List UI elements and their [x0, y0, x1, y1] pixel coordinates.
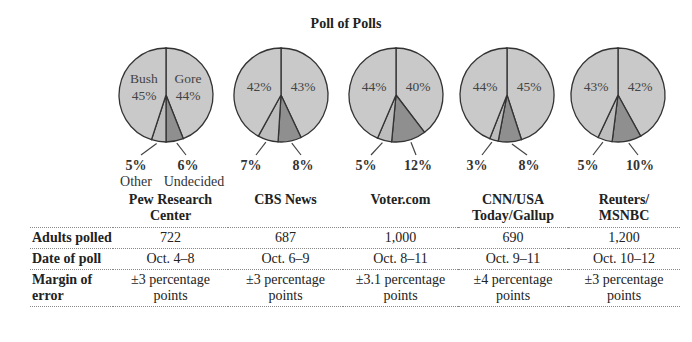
- table-cell: Oct. 10–12: [568, 249, 680, 270]
- other-value-label: 5%: [578, 158, 599, 173]
- leader-line: [371, 143, 382, 155]
- table-row-date-of-poll: Date of poll Oct. 4–8 Oct. 6–9 Oct. 8–11…: [30, 249, 680, 270]
- table-cell: 722: [113, 228, 228, 249]
- table-cell: 1,000: [343, 228, 458, 249]
- undecided-value-label: 10%: [626, 158, 654, 173]
- col-header-voter: Voter.com: [343, 192, 458, 228]
- table-cell: Oct. 8–11: [343, 249, 458, 270]
- table-cell: 690: [458, 228, 568, 249]
- table-row-margin-of-error: Margin oferror ±3 percentagepoints ±3 pe…: [30, 270, 680, 307]
- undecided-value-label: 12%: [404, 158, 432, 173]
- undecided-name-label: Undecided: [164, 174, 225, 189]
- gore-name-label: Gore: [175, 71, 202, 86]
- col-header-reuters: Reuters/MSNBC: [568, 192, 680, 228]
- leader-line: [177, 143, 186, 155]
- other-value-label: 3%: [467, 158, 488, 173]
- col-header-cnn: CNN/USAToday/Gallup: [458, 192, 568, 228]
- table-cell: 687: [228, 228, 343, 249]
- row-label: Date of poll: [30, 249, 113, 270]
- other-name-label: Other: [120, 174, 152, 189]
- undecided-value-label: 8%: [293, 158, 314, 173]
- other-value-label: 7%: [241, 158, 262, 173]
- other-value-label: 5%: [126, 158, 147, 173]
- table-cell: 1,200: [568, 228, 680, 249]
- table-cell: ±3 percentagepoints: [228, 270, 343, 307]
- bush-value-label: 45%: [132, 88, 157, 103]
- bush-value-label: 43%: [584, 79, 609, 94]
- leader-line: [256, 142, 266, 155]
- table-cell: ±3 percentagepoints: [113, 270, 228, 307]
- col-header-pew: Pew ResearchCenter: [113, 192, 228, 228]
- leader-line: [141, 143, 157, 155]
- gore-value-label: 40%: [406, 79, 431, 94]
- table-cell: ±4 percentagepoints: [458, 270, 568, 307]
- table-header-row: Pew ResearchCenter CBS News Voter.com CN…: [30, 192, 680, 228]
- leader-line: [482, 142, 492, 155]
- table-cell: Oct. 9–11: [458, 249, 568, 270]
- leader-line: [593, 142, 603, 155]
- bush-value-label: 44%: [473, 79, 498, 94]
- table-row-adults-polled: Adults polled 722 687 1,000 690 1,200: [30, 228, 680, 249]
- row-label: Adults polled: [30, 228, 113, 249]
- bush-value-label: 44%: [362, 79, 387, 94]
- gore-value-label: 45%: [517, 79, 542, 94]
- bush-value-label: 42%: [247, 79, 272, 94]
- table-cell: Oct. 6–9: [228, 249, 343, 270]
- table-cell: Oct. 4–8: [113, 249, 228, 270]
- table-cell: ±3 percentagepoints: [568, 270, 680, 307]
- leader-line: [411, 142, 416, 155]
- gore-value-label: 43%: [291, 79, 316, 94]
- leader-line: [629, 143, 638, 155]
- poll-details-table: Pew ResearchCenter CBS News Voter.com CN…: [30, 192, 680, 307]
- leader-line: [512, 144, 527, 155]
- other-value-label: 5%: [356, 158, 377, 173]
- col-header-cbs: CBS News: [228, 192, 343, 228]
- gore-value-label: 44%: [176, 88, 201, 103]
- gore-value-label: 42%: [628, 79, 653, 94]
- corner-cell: [30, 192, 113, 228]
- table-cell: ±3.1 percentagepoints: [343, 270, 458, 307]
- undecided-value-label: 8%: [519, 158, 540, 173]
- pie-charts: BushGore45%44%5%6%OtherUndecided42%43%7%…: [0, 0, 692, 192]
- row-label: Margin oferror: [30, 270, 113, 307]
- leader-line: [292, 143, 301, 155]
- bush-name-label: Bush: [130, 71, 158, 86]
- undecided-value-label: 6%: [178, 158, 199, 173]
